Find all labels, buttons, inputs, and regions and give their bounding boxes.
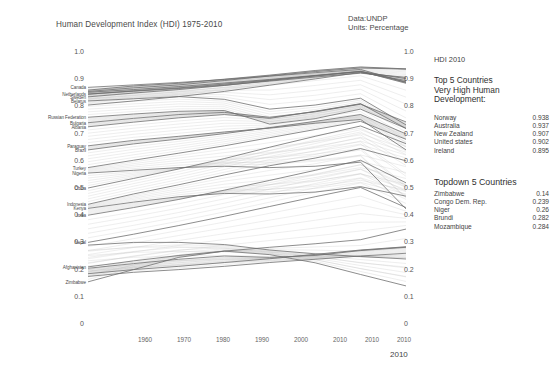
legend-row: Norway0.938 (434, 114, 549, 122)
legend-heading: HDI 2010 (434, 55, 549, 64)
legend-row: Zimbabwe0.14 (434, 190, 549, 198)
legend-country-value: 0.907 (532, 130, 549, 138)
country-label: Albania (26, 124, 86, 129)
series-line (88, 71, 406, 97)
y-axis-tick-right: 0.3 (404, 238, 430, 245)
line-chart-svg (88, 52, 406, 324)
legend-country-value: 0.938 (532, 114, 549, 122)
y-axis-tick-right: 0.8 (404, 102, 430, 109)
y-axis-tick-right: 0.1 (404, 293, 430, 300)
country-label: Canada (26, 85, 86, 90)
country-label: Afghanistan (26, 264, 86, 269)
legend-country-value: 0.937 (532, 122, 549, 130)
y-axis-tick-right: 0.6 (404, 157, 430, 164)
units-line: Units: Percentage (348, 24, 408, 33)
legend-panel: HDI 2010 Top 5 Countries Very High Human… (434, 55, 549, 231)
y-axis-tick-left: 0.9 (58, 75, 84, 82)
legend-country-name: New Zealand (434, 130, 473, 138)
legend-country-value: 0.902 (532, 138, 549, 146)
series-line (88, 251, 406, 277)
legend-country-name: Australia (434, 122, 460, 130)
x-axis-tick: 1960 (125, 336, 165, 343)
y-axis-tick-left: 0.6 (58, 157, 84, 164)
y-axis-tick-right: 1.0 (404, 48, 430, 55)
y-axis-tick-left: 1.0 (58, 48, 84, 55)
legend-row: United states0.902 (434, 138, 549, 146)
legend-spacer (434, 155, 549, 177)
country-label: Nigeria (26, 171, 86, 176)
plot-area (88, 52, 406, 324)
legend-country-name: Niger (434, 206, 450, 214)
legend-country-value: 0.282 (532, 214, 549, 222)
x-axis-tick: 2010 (384, 336, 424, 343)
legend-top-title-line3: Development: (434, 95, 549, 105)
series-line (88, 229, 406, 267)
country-label: India (26, 213, 86, 218)
legend-country-name: United states (434, 138, 472, 146)
y-axis-tick-right: 0.4 (404, 211, 430, 218)
y-axis-tick-right: 0.2 (404, 266, 430, 273)
legend-country-name: Congo Dem. Rep. (434, 198, 487, 206)
series-line (88, 187, 406, 242)
country-label: Kenya (26, 206, 86, 211)
country-label: Turkey (26, 165, 86, 170)
data-source-block: Data:UNDP Units: Percentage (348, 15, 408, 32)
legend-bottom-title: Topdown 5 Countries (434, 177, 549, 187)
legend-country-value: 0.239 (532, 198, 549, 206)
country-label: Zimbabwe (26, 279, 86, 284)
country-label: Belarus (26, 98, 86, 103)
hdi-chart-figure: Human Development Index (HDI) 1975-2010 … (0, 0, 551, 381)
legend-country-value: 0.26 (536, 206, 549, 214)
legend-row: Ireland0.895 (434, 147, 549, 155)
y-axis-tick-right: 0.9 (404, 75, 430, 82)
legend-bottom-rows: Zimbabwe0.14Congo Dem. Rep.0.239Niger0.2… (434, 190, 549, 231)
legend-row: Congo Dem. Rep.0.239 (434, 198, 549, 206)
legend-top-rows: Norway0.938Australia0.937New Zealand0.90… (434, 114, 549, 155)
legend-country-name: Zimbabwe (434, 190, 464, 198)
series-line (88, 173, 406, 211)
legend-country-name: Ireland (434, 147, 454, 155)
page-title: Human Development Index (HDI) 1975-2010 (56, 20, 222, 29)
x-axis-tick: 1980 (203, 336, 243, 343)
legend-country-value: 0.895 (532, 147, 549, 155)
series-line (88, 250, 406, 281)
x-axis-tick: 1990 (242, 336, 282, 343)
y-axis-tick-left: 0 (58, 320, 84, 327)
legend-row: New Zealand0.907 (434, 130, 549, 138)
country-label: Brazil (26, 147, 86, 152)
country-label: China (26, 186, 86, 191)
y-axis-tick-right: 0.7 (404, 130, 430, 137)
series-lines (88, 67, 406, 286)
country-label: Russian Federation (26, 115, 86, 120)
legend-country-name: Mozambique (434, 223, 472, 231)
y-axis-tick-right: 0 (404, 320, 430, 327)
y-axis-tick-right: 0.5 (404, 184, 430, 191)
x-axis-tick: 1970 (164, 336, 204, 343)
legend-row: Brundi0.282 (434, 214, 549, 222)
legend-row: Mozambique0.284 (434, 223, 549, 231)
series-line (88, 149, 406, 205)
legend-row: Australia0.937 (434, 122, 549, 130)
legend-top-title: Top 5 Countries Very High Human Developm… (434, 76, 549, 105)
legend-country-name: Norway (434, 114, 456, 122)
legend-country-value: 0.284 (532, 223, 549, 231)
country-label: Nepal (26, 240, 86, 245)
legend-country-value: 0.14 (536, 190, 549, 198)
y-axis-tick-left: 0.7 (58, 130, 84, 137)
y-axis-tick-left: 0.1 (58, 293, 84, 300)
legend-row: Niger0.26 (434, 206, 549, 214)
x-axis-note: 2010 (390, 350, 408, 359)
x-axis-tick: 2000 (281, 336, 321, 343)
legend-country-name: Brundi (434, 214, 453, 222)
